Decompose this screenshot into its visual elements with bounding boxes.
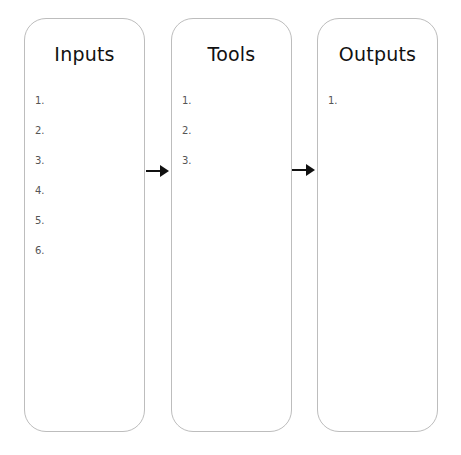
- list-item: 5.: [35, 213, 45, 243]
- list-item: 4.: [35, 183, 45, 213]
- inputs-card: Inputs 1. 2. 3. 4. 5. 6.: [24, 18, 145, 432]
- tools-list: 1. 2. 3.: [182, 93, 192, 183]
- arrow-right-icon: [146, 170, 167, 172]
- tools-card: Tools 1. 2. 3.: [171, 18, 292, 432]
- arrow-right-icon: [292, 169, 313, 171]
- list-item: 1.: [182, 93, 192, 123]
- outputs-title: Outputs: [318, 43, 437, 65]
- outputs-card: Outputs 1.: [317, 18, 438, 432]
- list-item: 6.: [35, 243, 45, 273]
- tools-title: Tools: [172, 43, 291, 65]
- list-item: 2.: [35, 123, 45, 153]
- outputs-list: 1.: [328, 93, 338, 123]
- list-item: 1.: [328, 93, 338, 123]
- inputs-list: 1. 2. 3. 4. 5. 6.: [35, 93, 45, 273]
- list-item: 3.: [182, 153, 192, 183]
- list-item: 3.: [35, 153, 45, 183]
- list-item: 2.: [182, 123, 192, 153]
- inputs-title: Inputs: [25, 43, 144, 65]
- list-item: 1.: [35, 93, 45, 123]
